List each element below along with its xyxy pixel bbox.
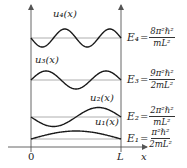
energy-fraction: 9π²ℏ² 2mL² [149,69,174,89]
energy-fraction: π²ℏ² 2mL² [149,128,172,148]
energy-e1: E₁ = π²ℏ² 2mL² [127,128,172,148]
energy-level-diagram: u₄(x) u₃(x) u₂(x) u₁(x) 0 L x E₄ = 8π²ℏ²… [0,0,187,168]
origin-label: 0 [28,152,34,162]
energy-fraction: 8π²ℏ² mL² [149,27,174,47]
energy-e2: E₂ = 2π²ℏ² mL² [127,106,175,126]
energy-symbol: E₂ [127,110,139,122]
wavefunction-label-u1: u₁(x) [95,117,119,127]
wavefunction-u1-curve [31,131,121,139]
energy-symbol: E₄ [127,31,139,43]
energy-e3: E₃ = 9π²ℏ² 2mL² [127,69,175,89]
energy-symbol: E₁ [127,132,139,144]
energy-symbol: E₃ [127,73,139,85]
x-axis-label: x [141,152,147,162]
wall-label-L: L [117,152,124,162]
wavefunction-label-u3: u₃(x) [35,55,59,65]
wavefunction-label-u2: u₂(x) [90,93,114,103]
energy-fraction: 2π²ℏ² mL² [149,106,174,126]
wavefunction-label-u4: u₄(x) [53,9,77,19]
energy-e4: E₄ = 8π²ℏ² mL² [127,27,175,47]
